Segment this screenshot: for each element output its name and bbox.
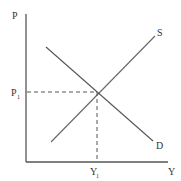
svg-text:1: 1 [17, 94, 20, 100]
demand-label: D [156, 140, 163, 151]
svg-text:1: 1 [96, 173, 99, 179]
demand-curve [46, 47, 153, 141]
supply-demand-diagram: P Y S D P 1 Y 1 [0, 0, 181, 181]
equilibrium-price-label: P 1 [11, 87, 20, 100]
supply-curve [51, 36, 155, 142]
equilibrium-quantity-label: Y 1 [90, 166, 99, 179]
x-axis-label: Y [168, 166, 175, 177]
y-axis-label: P [12, 10, 18, 21]
supply-label: S [157, 27, 163, 38]
